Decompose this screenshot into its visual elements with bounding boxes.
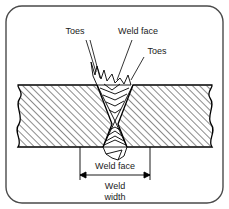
label-weld-width-line2: width xyxy=(103,192,125,202)
label-weld-width-line1: Weld xyxy=(105,181,125,191)
weld-cross-section-figure: Toes Weld face Toes Weld face Weld width xyxy=(0,0,229,209)
label-weld-face-bottom: Weld face xyxy=(95,161,135,171)
label-toes-left: Toes xyxy=(65,26,85,36)
figure-canvas: Toes Weld face Toes Weld face Weld width xyxy=(0,0,229,209)
label-weld-face-top: Weld face xyxy=(118,26,158,36)
label-toes-right: Toes xyxy=(147,46,167,56)
